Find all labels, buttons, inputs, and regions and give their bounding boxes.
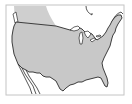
map-svg <box>0 0 132 104</box>
lake-michigan <box>79 32 83 44</box>
us-map: Contiguous United States <box>0 0 132 104</box>
